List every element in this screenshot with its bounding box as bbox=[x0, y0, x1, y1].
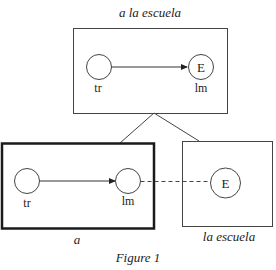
component-la-escuela-title: la escuela bbox=[203, 229, 256, 244]
a-trajector-label: tr bbox=[23, 196, 30, 210]
figure-caption: Figure 1 bbox=[115, 250, 161, 265]
a-landmark-circle bbox=[116, 169, 141, 194]
composite-landmark-symbol: E bbox=[197, 60, 205, 75]
a-trajector-circle bbox=[15, 169, 40, 194]
composition-diagram: a la escuela E tr lm tr lm E a la escuel… bbox=[0, 0, 276, 270]
composition-line-left bbox=[120, 113, 154, 143]
component-a-box: tr lm bbox=[2, 144, 154, 229]
component-a-title: a bbox=[74, 232, 81, 247]
component-la-escuela-box: E bbox=[183, 142, 273, 227]
composite-trajector-label: tr bbox=[94, 81, 101, 95]
composition-line-right bbox=[154, 113, 199, 141]
composite-landmark-label: lm bbox=[195, 81, 208, 95]
composite-box: E tr lm bbox=[74, 29, 228, 114]
composite-trajector-circle bbox=[87, 55, 112, 80]
a-landmark-label: lm bbox=[122, 194, 135, 208]
composite-title: a la escuela bbox=[119, 5, 182, 20]
la-escuela-entity-symbol: E bbox=[222, 176, 230, 191]
